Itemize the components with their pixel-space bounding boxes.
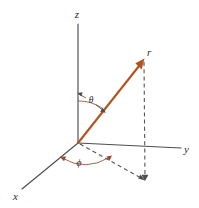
- phi-arc-start-arrowhead: [60, 156, 66, 161]
- x-axis-label: x: [12, 190, 18, 202]
- theta-angle-label: θ: [89, 95, 94, 105]
- phi-angle-label: ϕ: [77, 158, 82, 168]
- ground-projection-dashed-line: [80, 144, 143, 179]
- r-vector-label: r: [147, 47, 152, 58]
- r-vector-line: [78, 66, 139, 143]
- vertical-drop-dashed-line: [144, 62, 145, 178]
- y-axis-label: y: [183, 143, 189, 155]
- spherical-coordinates-diagram: z y x r θ ϕ: [0, 0, 199, 208]
- z-axis-label: z: [74, 8, 80, 20]
- x-axis-line: [22, 143, 78, 189]
- y-axis-line: [78, 143, 181, 148]
- phi-arc: [62, 157, 110, 165]
- coordinate-system-svg: z y x r θ ϕ: [0, 0, 199, 208]
